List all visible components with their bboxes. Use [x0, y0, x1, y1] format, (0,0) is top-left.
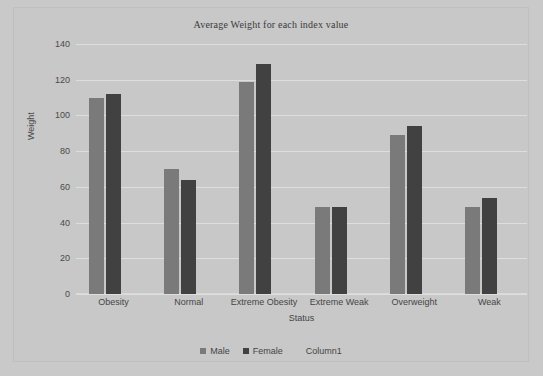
bar-female-extreme-obesity[interactable]: [256, 64, 271, 294]
legend-swatch-column1: [296, 348, 302, 354]
y-axis-tick-labels: 140120100806040200: [44, 44, 70, 294]
bar-cluster: [89, 44, 138, 294]
bar-group: [377, 44, 452, 294]
bar-male-extreme-weak[interactable]: [315, 207, 330, 295]
bar-male-extreme-obesity[interactable]: [239, 82, 254, 295]
bar-group: [151, 44, 226, 294]
bar-female-normal[interactable]: [181, 180, 196, 294]
x-axis-tick-label: Overweight: [377, 297, 452, 307]
y-axis-tick-label: 140: [55, 39, 70, 49]
bar-male-weak[interactable]: [465, 207, 480, 295]
bar-cluster: [315, 44, 364, 294]
bar-group: [76, 44, 151, 294]
y-axis-title: Weight: [26, 112, 36, 140]
legend-label: Column1: [306, 346, 342, 356]
x-axis-tick-label: Obesity: [76, 297, 151, 307]
bar-groups: [76, 44, 527, 294]
bar-cluster: [239, 44, 288, 294]
bar-male-normal[interactable]: [164, 169, 179, 294]
bar-male-obesity[interactable]: [89, 98, 104, 294]
y-axis-tick-label: 60: [60, 182, 70, 192]
legend-item-male[interactable]: Male: [200, 346, 230, 356]
y-axis-tick-label: 100: [55, 110, 70, 120]
chart-legend: MaleFemaleColumn1: [14, 346, 528, 356]
x-axis-tick-label: Extreme Weak: [302, 297, 377, 307]
legend-item-female[interactable]: Female: [243, 346, 283, 356]
x-axis-title: Status: [76, 313, 527, 323]
legend-swatch-male: [200, 348, 206, 354]
legend-item-column1[interactable]: Column1: [296, 346, 342, 356]
y-axis-tick-label: 80: [60, 146, 70, 156]
legend-label: Male: [210, 346, 230, 356]
y-axis-tick-label: 20: [60, 253, 70, 263]
bar-male-overweight[interactable]: [390, 135, 405, 294]
bar-group: [452, 44, 527, 294]
y-axis-tick-label: 0: [65, 289, 70, 299]
gridline: [76, 294, 527, 295]
x-axis-tick-label: Weak: [452, 297, 527, 307]
y-axis-tick-label: 40: [60, 218, 70, 228]
chart-title: Average Weight for each index value: [14, 19, 528, 30]
bar-cluster: [390, 44, 439, 294]
x-axis-tick-label: Normal: [151, 297, 226, 307]
x-axis-tick-labels: ObesityNormalExtreme ObesityExtreme Weak…: [76, 297, 527, 307]
bar-cluster: [164, 44, 213, 294]
bar-group: [302, 44, 377, 294]
bar-cluster: [465, 44, 514, 294]
legend-label: Female: [253, 346, 283, 356]
bar-female-obesity[interactable]: [106, 94, 121, 294]
bar-group: [226, 44, 301, 294]
legend-swatch-female: [243, 348, 249, 354]
x-axis-tick-label: Extreme Obesity: [226, 297, 301, 307]
bar-female-overweight[interactable]: [407, 126, 422, 294]
y-axis-tick-label: 120: [55, 75, 70, 85]
bar-female-weak[interactable]: [482, 198, 497, 294]
chart-container: Average Weight for each index value Weig…: [13, 7, 529, 362]
bar-female-extreme-weak[interactable]: [332, 207, 347, 295]
